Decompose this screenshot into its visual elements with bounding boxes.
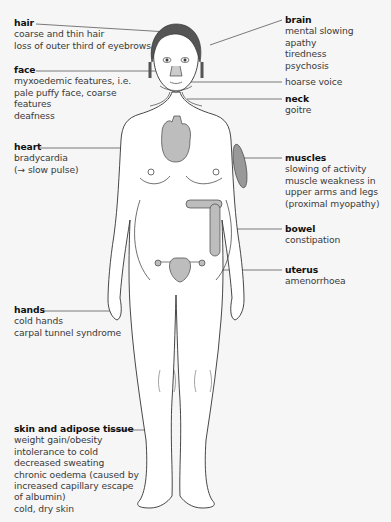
skin-line-3: decreased sweating (14, 457, 139, 468)
hands-line-1: cold hands (14, 315, 121, 326)
hands-line-2: carpal tunnel syndrome (14, 327, 121, 338)
heart-line-2: (→ slow pulse) (14, 164, 78, 175)
muscles-title: muscles (285, 152, 379, 163)
skin-line-5: increased capillary escape (14, 480, 139, 491)
label-bowel: bowel constipation (285, 223, 340, 246)
muscles-line-1: slowing of activity (285, 163, 379, 174)
hair-line-2: loss of outer third of eyebrows (14, 40, 151, 51)
label-hands: hands cold hands carpal tunnel syndrome (14, 304, 121, 338)
uterus-line-1: amenorrhoea (285, 275, 346, 286)
skin-line-1: weight gain/obesity (14, 434, 139, 445)
skin-line-7: cold, dry skin (14, 503, 139, 514)
neck-line-1: goitre (285, 104, 311, 115)
muscles-line-3: upper arms and legs (285, 186, 379, 197)
hands-title: hands (14, 304, 121, 315)
brain-line-2: apathy (285, 37, 353, 48)
muscles-line-4: (proximal myopathy) (285, 198, 379, 209)
bowel-title: bowel (285, 223, 340, 234)
face-title: face (14, 64, 131, 75)
diagram-canvas: hair coarse and thin hair loss of outer … (0, 0, 391, 522)
skin-line-2: intolerance to cold (14, 446, 139, 457)
label-skin: skin and adipose tissue weight gain/obes… (14, 423, 139, 514)
label-voice: hoarse voice (285, 76, 342, 87)
label-face: face myxoedemic features, i.e. pale puff… (14, 64, 131, 121)
label-hair: hair coarse and thin hair loss of outer … (14, 17, 151, 51)
skin-line-4: chronic oedema (caused by (14, 469, 139, 480)
brain-line-4: psychosis (285, 60, 353, 71)
brain-title: brain (285, 14, 353, 25)
muscles-line-2: muscle weakness in (285, 175, 379, 186)
label-heart: heart bradycardia (→ slow pulse) (14, 141, 78, 175)
bowel-line-1: constipation (285, 234, 340, 245)
uterus-title: uterus (285, 264, 346, 275)
label-brain: brain mental slowing apathy tiredness ps… (285, 14, 353, 71)
voice-line-1: hoarse voice (285, 76, 342, 87)
label-muscles: muscles slowing of activity muscle weakn… (285, 152, 379, 209)
skin-line-6: of albumin) (14, 491, 139, 502)
face-line-1: myxoedemic features, i.e. (14, 75, 131, 86)
skin-title: skin and adipose tissue (14, 423, 139, 434)
face-line-3: features (14, 98, 131, 109)
heart-title: heart (14, 141, 78, 152)
brain-line-3: tiredness (285, 48, 353, 59)
brain-leader-line (210, 20, 282, 45)
neck-title: neck (285, 93, 311, 104)
label-uterus: uterus amenorrhoea (285, 264, 346, 287)
label-neck: neck goitre (285, 93, 311, 116)
hair-line-1: coarse and thin hair (14, 28, 151, 39)
heart-line-1: bradycardia (14, 152, 78, 163)
hair-title: hair (14, 17, 151, 28)
face-line-2: pale puffy face, coarse (14, 87, 131, 98)
face-line-4: deafness (14, 110, 131, 121)
brain-line-1: mental slowing (285, 25, 353, 36)
